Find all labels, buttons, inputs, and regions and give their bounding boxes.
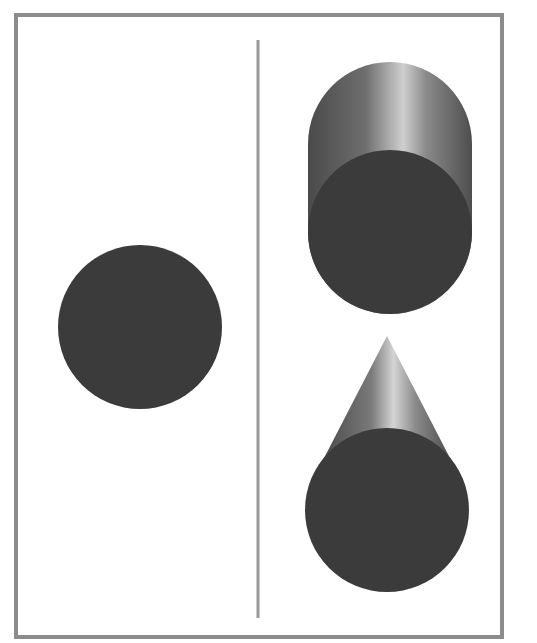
left-panel <box>58 245 222 409</box>
cylinder-face <box>308 150 472 314</box>
cylinder-shape <box>308 62 472 314</box>
diagram-canvas <box>0 0 537 643</box>
cone-face <box>305 428 469 592</box>
projected-circle <box>58 245 222 409</box>
